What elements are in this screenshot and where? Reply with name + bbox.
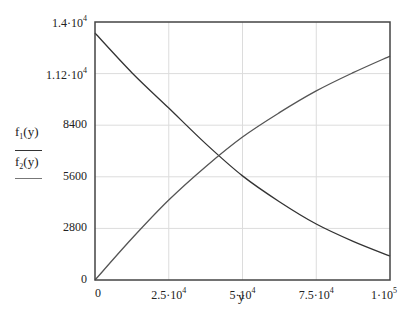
- y-tick-label: 8400: [0, 117, 87, 132]
- legend-f2-line: [15, 178, 42, 179]
- legend-f1-label: f1(y): [15, 124, 39, 141]
- legend-f2-label: f2(y): [15, 154, 39, 171]
- y-tick-label: 5600: [0, 169, 87, 184]
- x-axis-label: y: [238, 289, 245, 305]
- x-tick-label: 1·105: [371, 286, 397, 303]
- legend-f1-line: [15, 150, 42, 151]
- y-tick-label: 0: [0, 272, 87, 287]
- x-tick-label: 7.5·104: [299, 286, 334, 303]
- y-tick-label: 1.12·104: [0, 66, 87, 83]
- y-tick-label: 2800: [0, 220, 87, 235]
- x-tick-label: 2.5·104: [151, 286, 186, 303]
- y-tick-label: 1.4·104: [0, 14, 87, 31]
- x-tick-label: 0: [95, 286, 101, 301]
